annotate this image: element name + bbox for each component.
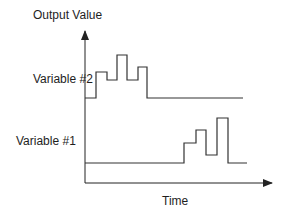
variable-2-waveform: [85, 55, 243, 98]
timing-diagram: [0, 0, 293, 216]
variable-1-waveform: [85, 118, 247, 163]
